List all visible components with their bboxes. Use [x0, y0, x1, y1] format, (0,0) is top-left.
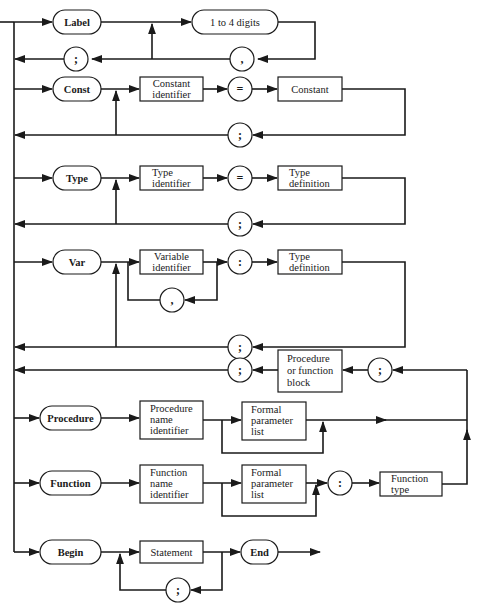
- function-keyword: Function: [50, 478, 90, 489]
- function-params-line3: list: [251, 489, 264, 500]
- block-line1: Procedure: [287, 353, 330, 364]
- block-leading-semicolon-symbol: ;: [238, 363, 242, 377]
- label-section: Label 1 to 4 digits , ;: [14, 10, 315, 71]
- function-type-line2: type: [391, 484, 409, 495]
- type-keyword: Type: [66, 173, 88, 184]
- begin-section: Begin Statement End ;: [14, 540, 320, 602]
- begin-keyword: Begin: [58, 547, 84, 558]
- var-keyword: Var: [69, 257, 86, 268]
- var-section: Var Variable identifier , : Type definit…: [14, 250, 405, 359]
- end-keyword: End: [250, 547, 269, 558]
- block-line3: block: [287, 377, 311, 388]
- statement-label: Statement: [151, 547, 193, 558]
- begin-semicolon-symbol: ;: [176, 583, 180, 597]
- function-name-line3: identifier: [150, 489, 189, 500]
- comma-symbol: ,: [241, 52, 244, 66]
- function-params-line1: Formal: [251, 467, 281, 478]
- variable-identifier-line2: identifier: [152, 262, 191, 273]
- semicolon-symbol: ;: [74, 52, 78, 66]
- constant-identifier-line2: identifier: [152, 89, 191, 100]
- var-comma-symbol: ,: [171, 293, 174, 307]
- procedure-params-line2: parameter: [251, 415, 293, 426]
- procedure-params-line3: list: [251, 426, 264, 437]
- block-line2: or function: [287, 365, 334, 376]
- constant-identifier-line1: Constant: [153, 78, 190, 89]
- procedure-section: Procedure Procedure name identifier Form…: [14, 401, 467, 453]
- const-keyword: Const: [64, 84, 91, 95]
- syntax-diagram: Label 1 to 4 digits , ; Const Constant i…: [0, 0, 478, 608]
- type-section: Type Type identifier = Type definition ;: [14, 166, 405, 236]
- type-semicolon-symbol: ;: [238, 217, 242, 231]
- variable-identifier-line1: Variable: [154, 251, 189, 262]
- procedure-name-line2: name: [150, 414, 173, 425]
- function-section: Function Function name identifier Formal…: [14, 370, 467, 516]
- var-type-definition-line1: Type: [289, 251, 310, 262]
- const-section: Const Constant identifier = Constant ;: [14, 77, 405, 147]
- function-params-line2: parameter: [251, 478, 293, 489]
- const-semicolon-symbol: ;: [238, 128, 242, 142]
- procedure-name-line3: identifier: [150, 425, 189, 436]
- var-semicolon-symbol: ;: [238, 340, 242, 354]
- function-name-line1: Function: [150, 467, 188, 478]
- constant-label: Constant: [291, 84, 328, 95]
- var-colon-symbol: :: [238, 255, 242, 269]
- equals-symbol: =: [237, 82, 244, 96]
- function-type-line1: Function: [391, 473, 429, 484]
- main-spine: [0, 22, 14, 552]
- type-identifier-line2: identifier: [152, 178, 191, 189]
- block-trailing-semicolon-symbol: ;: [378, 363, 382, 377]
- digits-label: 1 to 4 digits: [210, 17, 260, 28]
- label-keyword: Label: [64, 17, 90, 28]
- var-type-definition-line2: definition: [289, 262, 331, 273]
- type-definition-line2: definition: [289, 178, 331, 189]
- procedure-keyword: Procedure: [47, 413, 94, 424]
- function-colon-symbol: :: [338, 476, 342, 490]
- type-definition-line1: Type: [289, 167, 310, 178]
- procedure-name-line1: Procedure: [150, 403, 193, 414]
- type-identifier-line1: Type: [152, 167, 173, 178]
- type-equals-symbol: =: [237, 171, 244, 185]
- function-name-line2: name: [150, 478, 173, 489]
- procedure-params-line1: Formal: [251, 404, 281, 415]
